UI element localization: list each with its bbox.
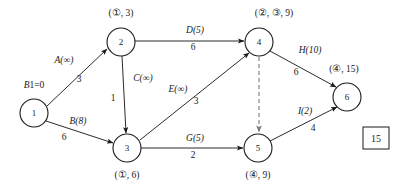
node-4[interactable]: 4(②, ③, 9) (245, 8, 293, 56)
edge-label-H: H(10) (298, 45, 322, 56)
edge-3-to-5[interactable]: G(5)2 (141, 133, 243, 160)
edge-weight-D: 6 (191, 42, 196, 52)
node-number-3: 3 (125, 143, 130, 153)
node-3[interactable]: 3(①, 6) (113, 134, 141, 181)
node-tag-4: (②, ③, 9) (255, 8, 294, 19)
node-number-6: 6 (345, 92, 350, 102)
node-number-5: 5 (256, 143, 261, 153)
edge-label-B: B(8) (70, 116, 87, 127)
edge-label-G: G(5) (186, 133, 204, 144)
edge-1-to-2[interactable]: A(∞)3 (47, 49, 107, 106)
edge-3-to-4[interactable]: E(∞)3 (140, 53, 249, 140)
node-tag-5: (④, 9) (246, 170, 271, 181)
node-tag-2: (①, 3) (109, 8, 134, 19)
network-graph: A(∞)3B(8)6C(∞)1D(5)6E(∞)3G(5)2H(10)6I(2)… (0, 0, 397, 187)
edge-label-I: I(2) (297, 106, 312, 117)
node-2[interactable]: 2(①, 3) (107, 8, 135, 56)
edge-label-C: C(∞) (133, 73, 152, 84)
edge-line-H (270, 51, 336, 87)
edge-weight-I: 4 (311, 123, 316, 133)
node-1[interactable]: 1 (20, 99, 48, 127)
node-tag-3: (①, 6) (115, 170, 140, 181)
edge-5-to-6[interactable]: I(2)4 (270, 106, 337, 141)
edge-1-to-3[interactable]: B(8)6 (46, 116, 113, 143)
edge-label-E: E(∞) (168, 84, 188, 95)
edge-weight-A: 3 (77, 74, 82, 84)
result-box-value: 15 (371, 133, 381, 144)
node-5[interactable]: 5(④, 9) (244, 134, 272, 181)
edge-line-C (122, 56, 126, 133)
source-potential-label: B1=0 (24, 80, 45, 90)
result-box: 15 (363, 127, 389, 149)
edge-weight-C: 1 (111, 93, 116, 103)
node-number-2: 2 (119, 37, 124, 47)
edges-layer: A(∞)3B(8)6C(∞)1D(5)6E(∞)3G(5)2H(10)6I(2)… (46, 25, 337, 160)
edge-label-D: D(5) (185, 25, 204, 36)
edge-weight-G: 2 (191, 150, 196, 160)
node-tag-6: (④, 15) (329, 64, 359, 75)
edge-weight-B: 6 (62, 132, 67, 142)
edge-4-to-6[interactable]: H(10)6 (270, 45, 336, 87)
edge-weight-H: 6 (294, 67, 299, 77)
source-label-value: 1=0 (29, 80, 44, 90)
edge-weight-E: 3 (194, 96, 199, 106)
edge-2-to-4[interactable]: D(5)6 (135, 25, 244, 52)
node-6[interactable]: 6(④, 15) (329, 64, 361, 111)
diagram-canvas: A(∞)3B(8)6C(∞)1D(5)6E(∞)3G(5)2H(10)6I(2)… (0, 0, 397, 187)
node-number-4: 4 (257, 37, 262, 47)
node-number-1: 1 (32, 108, 37, 118)
edge-label-A: A(∞) (54, 55, 74, 66)
edge-2-to-3[interactable]: C(∞)1 (111, 56, 153, 133)
